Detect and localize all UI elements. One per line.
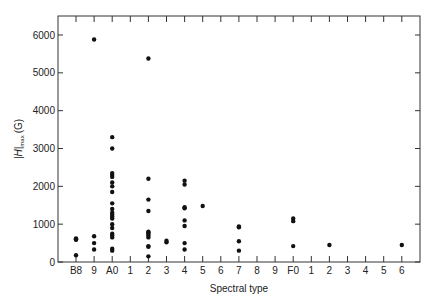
x-tick-label: 2 xyxy=(327,265,333,276)
x-tick-label: A0 xyxy=(106,265,119,276)
y-tick-label: 6000 xyxy=(33,30,56,41)
data-point xyxy=(146,177,150,181)
data-point xyxy=(146,56,150,60)
data-point xyxy=(74,237,78,241)
x-tick-label: 7 xyxy=(236,265,242,276)
data-point xyxy=(110,146,114,150)
x-tick-label: 4 xyxy=(182,265,188,276)
x-tick-label: 1 xyxy=(128,265,134,276)
data-point xyxy=(182,247,186,251)
scatter-chart: B89A0123456789F0123456 01000200030004000… xyxy=(0,0,437,300)
data-point xyxy=(182,182,186,186)
data-point xyxy=(164,240,168,244)
x-axis-title: Spectral type xyxy=(210,283,269,294)
data-point xyxy=(110,175,114,179)
data-point xyxy=(237,239,241,243)
data-point xyxy=(92,247,96,251)
data-point xyxy=(110,235,114,239)
svg-text:|H|max(G): |H|max(G) xyxy=(13,119,25,159)
data-point xyxy=(182,241,186,245)
y-axis-title: |H|max(G) xyxy=(13,119,25,159)
data-point xyxy=(182,206,186,210)
data-point xyxy=(146,197,150,201)
x-tick-label: F0 xyxy=(287,265,299,276)
data-point xyxy=(146,235,150,239)
x-tick-label: 9 xyxy=(272,265,278,276)
y-axis-title-main: |H| xyxy=(13,147,24,159)
data-point xyxy=(110,201,114,205)
data-point xyxy=(146,209,150,213)
data-point xyxy=(201,204,205,208)
data-point xyxy=(92,241,96,245)
data-point xyxy=(92,234,96,238)
y-tick-label: 3000 xyxy=(33,143,56,154)
x-axis-ticks: B89A0123456789F0123456 xyxy=(70,256,405,276)
y-tick-label: 0 xyxy=(49,257,55,268)
y-tick-label: 1000 xyxy=(33,219,56,230)
data-point xyxy=(110,184,114,188)
x-tick-label: 1 xyxy=(309,265,315,276)
x-tick-label: 3 xyxy=(164,265,170,276)
data-point xyxy=(400,243,404,247)
x-tick-label: 2 xyxy=(146,265,152,276)
data-point xyxy=(110,222,114,226)
data-point xyxy=(182,218,186,222)
x-tick-label: 3 xyxy=(345,265,351,276)
data-point xyxy=(327,243,331,247)
data-point xyxy=(291,219,295,223)
data-point xyxy=(146,245,150,249)
x-tick-label: 5 xyxy=(381,265,387,276)
data-point xyxy=(182,224,186,228)
y-axis-title-unit: (G) xyxy=(13,119,24,133)
data-point xyxy=(110,207,114,211)
x-tick-label: 6 xyxy=(399,265,405,276)
data-point xyxy=(237,225,241,229)
y-axis-right-ticks xyxy=(415,35,420,262)
x-tick-label: 5 xyxy=(200,265,206,276)
x-tick-label: B8 xyxy=(70,265,83,276)
data-points xyxy=(74,37,404,258)
data-point xyxy=(237,248,241,252)
data-point xyxy=(110,190,114,194)
data-point xyxy=(110,135,114,139)
data-point xyxy=(110,180,114,184)
data-point xyxy=(92,37,96,41)
x-tick-label: 4 xyxy=(363,265,369,276)
x-tick-label: 6 xyxy=(218,265,224,276)
data-point xyxy=(110,216,114,220)
y-axis-title-sub: max xyxy=(19,135,25,146)
x-tick-label: 8 xyxy=(254,265,260,276)
x-tick-label: 9 xyxy=(91,265,97,276)
data-point xyxy=(146,254,150,258)
data-point xyxy=(74,253,78,257)
data-point xyxy=(110,226,114,230)
y-tick-label: 5000 xyxy=(33,67,56,78)
x-axis-top-ticks xyxy=(76,16,402,22)
y-tick-label: 2000 xyxy=(33,181,56,192)
data-point xyxy=(291,244,295,248)
data-point xyxy=(110,248,114,252)
y-tick-label: 4000 xyxy=(33,105,56,116)
data-point xyxy=(182,178,186,182)
